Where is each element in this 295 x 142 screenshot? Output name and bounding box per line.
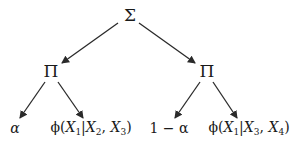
edge-prod-right-one-minus-alpha — [175, 82, 200, 118]
edge-sum-prod-right — [139, 23, 195, 63]
leaf-one-minus-alpha: 1 − α — [150, 121, 189, 135]
edge-prod-left-alpha — [20, 82, 45, 118]
edge-prod-left-phi1 — [58, 82, 83, 118]
leaf-phi-1: ϕ(X1|X2, X3) — [50, 120, 131, 137]
edge-sum-prod-left — [62, 23, 118, 63]
product-node-right: Π — [200, 63, 215, 80]
sum-node: Σ — [124, 7, 136, 24]
leaf-phi-2: ϕ(X1|X3, X4) — [208, 120, 289, 137]
edge-prod-right-phi2 — [213, 82, 237, 118]
product-node-left: Π — [44, 63, 59, 80]
leaf-alpha: α — [10, 121, 19, 135]
